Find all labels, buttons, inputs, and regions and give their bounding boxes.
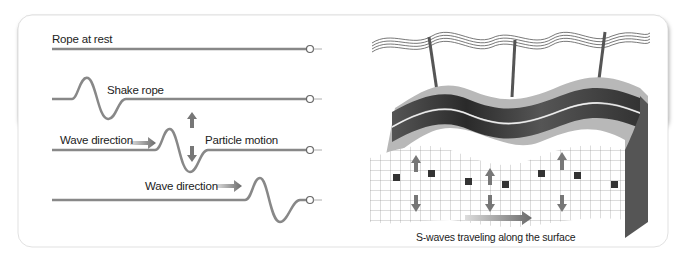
label-particle-motion: Particle motion (205, 134, 278, 146)
label-rope-at-rest: Rope at rest (52, 33, 112, 45)
caption-s-waves: S-waves traveling along the surface (416, 231, 575, 243)
label-wave-direction-2: Wave direction (145, 180, 218, 192)
label-wave-direction-1: Wave direction (60, 134, 133, 146)
label-shake-rope: Shake rope (107, 84, 164, 96)
